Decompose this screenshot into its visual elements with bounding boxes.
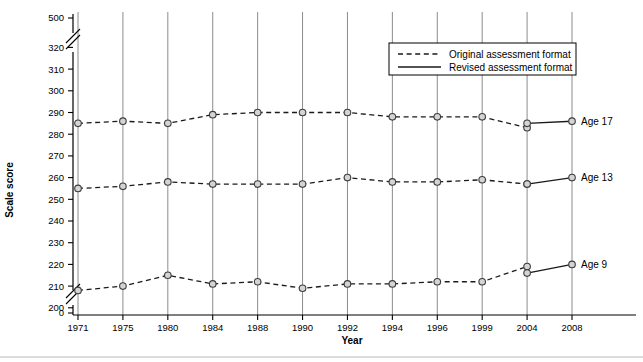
y-tick-label-320: 320 bbox=[48, 42, 64, 53]
data-point bbox=[569, 261, 576, 268]
data-point bbox=[479, 176, 486, 183]
series-label-age-17: Age 17 bbox=[581, 116, 613, 127]
y-tick-label-220: 220 bbox=[48, 259, 64, 270]
data-point bbox=[434, 179, 441, 186]
data-point bbox=[75, 287, 82, 294]
x-tick-label-1971: 1971 bbox=[67, 322, 88, 333]
y-tick-label-280: 280 bbox=[48, 129, 64, 140]
data-point bbox=[75, 120, 82, 127]
x-tick-label-1984: 1984 bbox=[202, 322, 223, 333]
data-point bbox=[389, 179, 396, 186]
data-point bbox=[344, 281, 351, 288]
y-tick-label-240: 240 bbox=[48, 215, 64, 226]
x-axis-ticks-group: 1971197519801984198819901992199419961999… bbox=[67, 315, 582, 333]
x-tick-label-1996: 1996 bbox=[427, 322, 448, 333]
y-tick-label-290: 290 bbox=[48, 107, 64, 118]
chart-canvas: 5003203103002902802702602502402302202102… bbox=[0, 0, 643, 362]
data-point bbox=[209, 111, 216, 118]
data-point bbox=[479, 278, 486, 285]
data-point bbox=[524, 181, 531, 188]
x-tick-label-1975: 1975 bbox=[112, 322, 133, 333]
y-tick-label-260: 260 bbox=[48, 172, 64, 183]
x-tick-label-1980: 1980 bbox=[157, 322, 178, 333]
data-point bbox=[524, 263, 531, 270]
data-point bbox=[524, 270, 531, 277]
data-point bbox=[434, 278, 441, 285]
y-tick-label-300: 300 bbox=[48, 85, 64, 96]
legend-label-revised: Revised assessment format bbox=[449, 62, 573, 73]
line-revised-age-17 bbox=[527, 121, 572, 123]
data-point bbox=[434, 114, 441, 121]
x-tick-label-1988: 1988 bbox=[247, 322, 268, 333]
data-point bbox=[569, 174, 576, 181]
series-label-age-9: Age 9 bbox=[581, 259, 608, 270]
data-point bbox=[254, 109, 261, 116]
y-tick-label-310: 310 bbox=[48, 64, 64, 75]
data-point bbox=[254, 181, 261, 188]
data-point bbox=[120, 183, 127, 190]
data-point bbox=[389, 114, 396, 121]
data-point bbox=[389, 281, 396, 288]
y-tick-label-210: 210 bbox=[48, 281, 64, 292]
y-axis-title: Scale score bbox=[4, 162, 15, 218]
data-point bbox=[209, 181, 216, 188]
x-axis-title: Year bbox=[341, 335, 362, 346]
y-tick-label-250: 250 bbox=[48, 194, 64, 205]
series-age-17 bbox=[75, 109, 576, 131]
data-point bbox=[165, 179, 172, 186]
line-revised-age-13 bbox=[527, 178, 572, 185]
data-point bbox=[569, 118, 576, 125]
data-series-group bbox=[75, 109, 576, 294]
y-tick-label-500: 500 bbox=[48, 12, 64, 23]
legend: Original assessment format Revised asses… bbox=[389, 43, 576, 75]
data-point bbox=[344, 109, 351, 116]
data-point bbox=[344, 174, 351, 181]
series-label-age-13: Age 13 bbox=[581, 172, 613, 183]
data-point bbox=[120, 283, 127, 290]
data-point bbox=[299, 181, 306, 188]
series-age-13 bbox=[75, 174, 576, 191]
y-tick-label-0: 0 bbox=[59, 307, 64, 318]
data-point bbox=[299, 285, 306, 292]
x-tick-label-2004: 2004 bbox=[517, 322, 538, 333]
data-point bbox=[254, 278, 261, 285]
series-labels-group: Age 17Age 13Age 9 bbox=[581, 116, 613, 270]
data-point bbox=[75, 185, 82, 192]
y-tick-label-270: 270 bbox=[48, 150, 64, 161]
x-tick-label-1999: 1999 bbox=[472, 322, 493, 333]
x-tick-label-1990: 1990 bbox=[292, 322, 313, 333]
x-tick-label-1994: 1994 bbox=[382, 322, 403, 333]
series-age-9 bbox=[75, 261, 576, 294]
y-tick-label-230: 230 bbox=[48, 237, 64, 248]
data-point bbox=[524, 120, 531, 127]
data-point bbox=[165, 120, 172, 127]
naep-scale-score-line-chart: 5003203103002902802702602502402302202102… bbox=[0, 0, 643, 362]
x-tick-label-1992: 1992 bbox=[337, 322, 358, 333]
x-tick-label-2008: 2008 bbox=[561, 322, 582, 333]
data-point bbox=[165, 272, 172, 279]
data-point bbox=[479, 114, 486, 121]
y-axis-ticks-group: 5003203103002902802702602502402302202102… bbox=[48, 12, 73, 318]
line-revised-age-9 bbox=[527, 264, 572, 273]
data-point bbox=[120, 118, 127, 125]
legend-label-original: Original assessment format bbox=[449, 49, 571, 60]
data-point bbox=[209, 281, 216, 288]
data-point bbox=[299, 109, 306, 116]
